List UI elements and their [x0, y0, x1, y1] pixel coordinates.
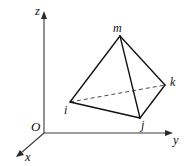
axes-group [16, 11, 173, 157]
y-axis-label: y [173, 134, 179, 147]
edge-j-k [140, 85, 165, 118]
tetrahedron-hidden-edges [70, 85, 165, 102]
z-axis-arrowhead [41, 11, 47, 19]
vertex-label-m: m [113, 22, 122, 34]
origin-label: O [31, 120, 40, 133]
y-axis-arrowhead [165, 130, 173, 136]
tetrahedron-diagram [0, 0, 184, 166]
edge-i-j [70, 102, 140, 118]
vertex-label-i: i [64, 104, 67, 116]
vertex-label-k: k [170, 76, 175, 88]
vertex-label-j: j [141, 119, 144, 131]
edge-m-i [70, 36, 120, 102]
tetrahedron-solid-edges [70, 36, 165, 118]
x-axis-label: x [25, 151, 31, 164]
figure-canvas: z y x O i j k m [0, 0, 184, 166]
edge-m-j [120, 36, 140, 118]
edge-m-k [120, 36, 165, 85]
edge-i-k [70, 85, 165, 102]
z-axis-label: z [35, 5, 40, 18]
